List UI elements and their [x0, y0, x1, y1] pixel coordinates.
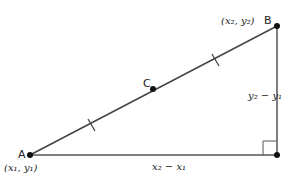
vertical-length-label: y₂ − y₁ — [247, 90, 282, 101]
point-c — [150, 86, 156, 92]
label-b: B — [264, 14, 272, 27]
label-c: C — [143, 77, 151, 90]
coord-label-b: (x₂, y₂) — [221, 15, 255, 26]
point-b — [274, 23, 280, 29]
right-triangle-diagram: A (x₁, y₁) B (x₂, y₂) C x₂ − x₁ y₂ − y₁ — [0, 0, 292, 183]
coord-label-a: (x₁, y₁) — [4, 162, 38, 173]
label-a: A — [18, 148, 26, 161]
point-corner — [274, 152, 280, 158]
point-a — [27, 152, 33, 158]
horizontal-length-label: x₂ − x₁ — [152, 161, 186, 172]
